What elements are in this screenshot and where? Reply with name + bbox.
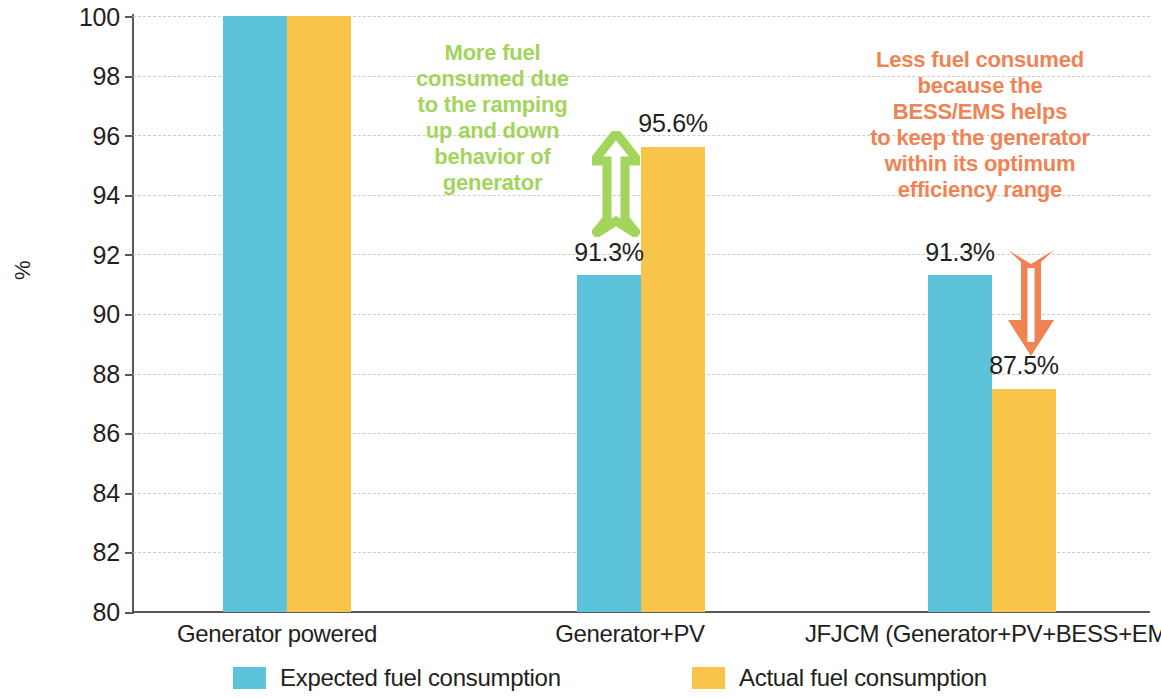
y-axis-title: %: [10, 260, 36, 280]
bar-actual-jfjcm: [992, 389, 1056, 613]
annotation-green-line-3: up and down: [385, 118, 600, 144]
annotation-orange-line-3: to keep the generator: [835, 125, 1125, 151]
tick-82: [125, 552, 133, 554]
annotation-green-line-1: consumed due: [385, 66, 600, 92]
legend-label-actual: Actual fuel consumption: [739, 664, 987, 692]
down-arrow-icon: [1006, 248, 1056, 358]
tick-80: [125, 612, 133, 614]
bar-expected-jfjcm: [928, 275, 992, 612]
tick-90: [125, 314, 133, 316]
annotation-green-line-5: generator: [385, 170, 600, 196]
annotation-green-note: More fuel consumed due to the ramping up…: [385, 40, 600, 196]
bar-label-expected-jfjcm: 91.3%: [900, 238, 1020, 267]
bar-expected-generator-pv: [577, 275, 641, 612]
fuel-consumption-bar-chart: % 100 98 96 94 92 90 88 86 84 82 80: [0, 0, 1161, 698]
y-tick-label-86: 86: [40, 419, 120, 448]
annotation-orange-line-5: efficiency range: [835, 177, 1125, 203]
annotation-orange-line-0: Less fuel consumed: [835, 47, 1125, 73]
tick-96: [125, 135, 133, 137]
y-tick-label-92: 92: [40, 241, 120, 270]
y-tick-label-90: 90: [40, 300, 120, 329]
y-tick-label-98: 98: [40, 62, 120, 91]
legend-item-expected[interactable]: Expected fuel consumption: [233, 664, 561, 692]
x-category-label-generator-pv: Generator+PV: [510, 620, 750, 648]
bar-actual-generator-pv: [641, 147, 705, 612]
x-category-label-jfjcm: JFJCM (Generator+PV+BESS+EMS): [805, 620, 1155, 648]
chart-legend: Expected fuel consumption Actual fuel co…: [0, 660, 1161, 696]
annotation-green-line-4: behavior of: [385, 144, 600, 170]
y-tick-label-88: 88: [40, 360, 120, 389]
annotation-orange-line-2: BESS/EMS helps: [835, 99, 1125, 125]
tick-88: [125, 374, 133, 376]
tick-86: [125, 433, 133, 435]
legend-item-actual[interactable]: Actual fuel consumption: [692, 664, 987, 692]
y-tick-label-100: 100: [40, 3, 120, 32]
tick-100: [125, 16, 133, 18]
y-tick-label-94: 94: [40, 181, 120, 210]
annotation-green-line-2: to the ramping: [385, 92, 600, 118]
annotation-green-line-0: More fuel: [385, 40, 600, 66]
x-category-label-generator-powered: Generator powered: [147, 620, 407, 648]
bar-expected-generator-powered: [223, 16, 287, 612]
tick-94: [125, 195, 133, 197]
annotation-orange-line-4: within its optimum: [835, 151, 1125, 177]
y-tick-label-82: 82: [40, 538, 120, 567]
bar-label-expected-generator-pv: 91.3%: [549, 238, 669, 267]
legend-swatch-expected-icon: [233, 667, 266, 689]
y-tick-label-96: 96: [40, 122, 120, 151]
tick-98: [125, 76, 133, 78]
tick-84: [125, 493, 133, 495]
annotation-orange-line-1: because the: [835, 73, 1125, 99]
y-tick-label-84: 84: [40, 479, 120, 508]
tick-92: [125, 254, 133, 256]
legend-label-expected: Expected fuel consumption: [280, 664, 561, 692]
y-tick-label-80: 80: [40, 598, 120, 627]
bar-actual-generator-powered: [287, 16, 351, 612]
annotation-orange-note: Less fuel consumed because the BESS/EMS …: [835, 47, 1125, 203]
legend-swatch-actual-icon: [692, 667, 725, 689]
